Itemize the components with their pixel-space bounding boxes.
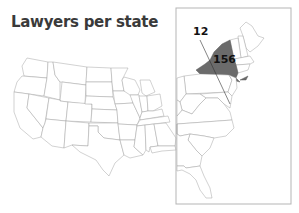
state-ct[interactable] [236, 64, 250, 73]
main-map-states [14, 58, 176, 176]
state-ny-li[interactable] [240, 76, 248, 80]
us-map [0, 0, 299, 213]
state-wy[interactable] [60, 82, 86, 104]
state-ar[interactable] [118, 124, 137, 140]
state-ga[interactable] [154, 123, 176, 146]
state-sd[interactable] [86, 82, 113, 97]
state-fl[interactable] [177, 166, 212, 198]
label-12: 12 [193, 25, 208, 38]
state-ut[interactable] [46, 98, 68, 121]
state-nm[interactable] [64, 121, 89, 148]
state-pa[interactable] [184, 74, 232, 94]
state-wa[interactable] [22, 58, 48, 78]
label-156: 156 [213, 53, 236, 66]
state-fl-west[interactable] [150, 146, 176, 153]
state-co[interactable] [66, 102, 92, 122]
state-ks[interactable] [91, 109, 118, 123]
state-nd[interactable] [86, 67, 112, 82]
state-oh[interactable] [147, 94, 162, 111]
inset-states [177, 22, 264, 198]
state-mi[interactable] [140, 80, 155, 96]
state-az[interactable] [41, 119, 66, 148]
